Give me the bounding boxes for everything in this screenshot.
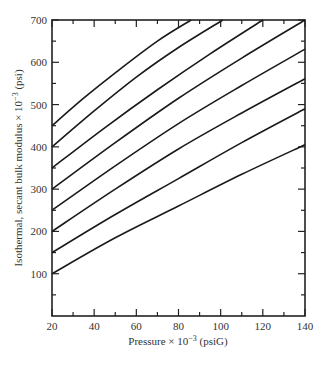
curve-line [52, 109, 305, 253]
x-tick-label: 60 [131, 320, 143, 332]
y-tick-label: 700 [31, 14, 48, 26]
curve-line [52, 20, 305, 189]
y-tick-label: 600 [31, 56, 48, 68]
y-tick-label: 400 [31, 141, 48, 153]
plot-frame [52, 20, 305, 316]
curve-line [52, 145, 305, 274]
y-axis: 100200300400500600700 [31, 14, 306, 295]
y-tick-label: 300 [31, 183, 48, 195]
x-tick-label: 20 [47, 320, 59, 332]
x-tick-label: 80 [173, 320, 185, 332]
curve-line [52, 79, 305, 232]
y-tick-label: 500 [31, 99, 48, 111]
y-tick-label: 100 [31, 268, 48, 280]
curves [52, 20, 305, 274]
y-tick-label: 200 [31, 225, 48, 237]
chart: 20406080100120140 100200300400500600700 … [0, 0, 324, 365]
x-tick-label: 100 [212, 320, 229, 332]
curve-line [52, 20, 263, 168]
y-axis-title: Isothermal, secant bulk modulus × 10−3 (… [11, 69, 25, 266]
x-axis-title: Pressure × 10−3 (psiG) [128, 334, 228, 348]
curve-line [52, 20, 223, 147]
x-tick-label: 40 [89, 320, 101, 332]
x-tick-label: 120 [255, 320, 272, 332]
x-tick-label: 140 [297, 320, 314, 332]
curve-line [52, 20, 191, 126]
